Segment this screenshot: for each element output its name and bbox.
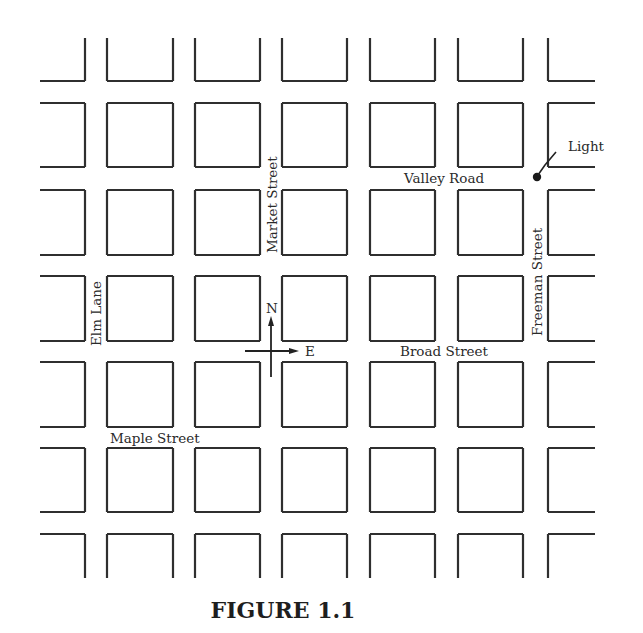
- city-block: [548, 534, 595, 578]
- street-label-maple-street: Maple Street: [110, 430, 200, 446]
- city-block: [282, 38, 347, 81]
- city-block: [107, 38, 173, 81]
- city-block: [282, 362, 347, 427]
- city-block: [370, 103, 435, 167]
- city-block: [458, 534, 523, 578]
- city-block: [107, 362, 173, 427]
- city-block: [195, 103, 260, 167]
- city-block: [370, 276, 435, 341]
- city-block: [195, 362, 260, 427]
- city-block: [370, 38, 435, 81]
- city-block: [548, 362, 595, 427]
- city-block: [458, 38, 523, 81]
- city-block: [282, 276, 347, 341]
- street-label-elm-lane: Elm Lane: [88, 281, 104, 346]
- city-block: [40, 38, 85, 81]
- figure-caption: FIGURE 1.1: [211, 597, 356, 623]
- north-arrow-icon: [268, 316, 274, 326]
- street-label-valley-road: Valley Road: [403, 170, 484, 186]
- city-block: [370, 534, 435, 578]
- street-label-broad-street: Broad Street: [400, 343, 489, 359]
- city-block: [195, 276, 260, 341]
- light-landmark: Light: [533, 138, 605, 181]
- city-block: [195, 190, 260, 255]
- city-block: [458, 276, 523, 341]
- city-block: [458, 448, 523, 512]
- city-block: [40, 448, 85, 512]
- city-block: [107, 103, 173, 167]
- city-block: [548, 190, 595, 255]
- city-block: [282, 534, 347, 578]
- compass-rose: N E: [245, 300, 315, 377]
- city-block: [282, 448, 347, 512]
- city-block: [548, 448, 595, 512]
- city-blocks: [40, 38, 595, 578]
- city-block: [40, 362, 85, 427]
- street-label-market-street: Market Street: [264, 156, 280, 253]
- map-figure: Valley Road Broad Street Maple Street Ma…: [0, 0, 643, 633]
- city-block: [458, 362, 523, 427]
- city-block: [548, 38, 595, 81]
- city-block: [195, 448, 260, 512]
- city-block: [370, 362, 435, 427]
- street-grid-map: Valley Road Broad Street Maple Street Ma…: [0, 0, 643, 633]
- city-block: [40, 103, 85, 167]
- east-arrow-icon: [289, 348, 299, 354]
- city-block: [458, 103, 523, 167]
- city-block: [548, 276, 595, 341]
- light-dot-icon: [533, 173, 541, 181]
- city-block: [107, 190, 173, 255]
- city-block: [282, 103, 347, 167]
- light-label: Light: [568, 138, 605, 154]
- city-block: [195, 38, 260, 81]
- compass-east-label: E: [305, 343, 315, 359]
- city-block: [40, 534, 85, 578]
- city-block: [107, 276, 173, 341]
- city-block: [40, 190, 85, 255]
- city-block: [458, 190, 523, 255]
- city-block: [370, 448, 435, 512]
- city-block: [107, 534, 173, 578]
- city-block: [370, 190, 435, 255]
- city-block: [107, 448, 173, 512]
- compass-north-label: N: [266, 300, 278, 316]
- street-label-freeman-street: Freeman Street: [529, 227, 545, 336]
- city-block: [40, 276, 85, 341]
- city-block: [548, 103, 595, 167]
- city-block: [195, 534, 260, 578]
- city-block: [282, 190, 347, 255]
